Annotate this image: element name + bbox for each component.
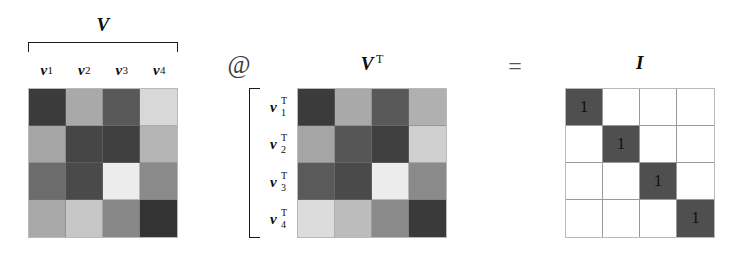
matrix-cell xyxy=(677,163,714,200)
matrix-i-grid: 1111 xyxy=(565,88,715,238)
matrix-cell xyxy=(372,126,409,163)
matrix-cell xyxy=(409,126,446,163)
row-label-v4t-superscript: T xyxy=(281,207,287,218)
matrix-cell xyxy=(640,89,677,126)
matrix-cell xyxy=(103,163,140,200)
matrix-cell xyxy=(140,163,177,200)
matrix-cell xyxy=(140,200,177,237)
matrix-cell xyxy=(640,126,677,163)
matrix-cell xyxy=(566,200,603,237)
row-label-v1t-superscript: T xyxy=(281,95,287,106)
row-label-v2t: v T 2 xyxy=(258,126,294,164)
column-label-v1: v1 xyxy=(28,56,66,84)
matrix-i-title: I xyxy=(565,52,715,74)
matrix-vt-title: VT xyxy=(297,52,447,75)
matrix-cell-value: 1 xyxy=(580,98,589,115)
column-label-v3-symbol: v xyxy=(115,62,122,79)
column-label-v3: v3 xyxy=(103,56,141,84)
matrix-cell xyxy=(29,126,66,163)
row-label-v4t: v T 4 xyxy=(258,201,294,239)
matrix-cell xyxy=(66,89,103,126)
matrix-cell xyxy=(372,163,409,200)
matrix-cell-value: 1 xyxy=(654,172,663,189)
matrix-cell xyxy=(409,200,446,237)
matrix-cell xyxy=(298,89,335,126)
matrix-cell xyxy=(372,89,409,126)
matrix-cell xyxy=(103,89,140,126)
row-label-v3t: v T 3 xyxy=(258,163,294,201)
row-label-v2t-superscript: T xyxy=(281,132,287,143)
row-label-v3t-superscript: T xyxy=(281,170,287,181)
matrix-cell xyxy=(677,89,714,126)
matrix-cell xyxy=(103,126,140,163)
matrix-cell xyxy=(335,163,372,200)
matrix-vt-grid xyxy=(297,88,447,238)
row-label-v2t-subscript: 2 xyxy=(281,144,286,155)
matrix-cell: 1 xyxy=(677,200,714,237)
matrix-cell xyxy=(140,89,177,126)
matrix-cell xyxy=(335,126,372,163)
column-label-v2-subscript: 2 xyxy=(85,64,91,76)
matrix-cell xyxy=(409,163,446,200)
column-label-v2-symbol: v xyxy=(78,62,85,79)
matmul-operator: @ xyxy=(220,48,258,82)
matrix-cell xyxy=(677,126,714,163)
v-column-brace xyxy=(28,42,178,52)
row-label-v1t: v T 1 xyxy=(258,88,294,126)
matrix-cell xyxy=(298,163,335,200)
matrix-cell xyxy=(372,200,409,237)
matrix-cell xyxy=(335,89,372,126)
column-label-v4: v4 xyxy=(141,56,179,84)
matrix-v-title: V xyxy=(0,14,206,36)
row-label-v1t-symbol: v xyxy=(270,99,277,116)
matrix-vt-title-base: V xyxy=(361,53,374,74)
row-label-v3t-symbol: v xyxy=(270,174,277,191)
matrix-cell xyxy=(603,89,640,126)
row-label-v4t-symbol: v xyxy=(270,211,277,228)
matrix-cell xyxy=(640,200,677,237)
column-label-v2: v2 xyxy=(66,56,104,84)
vt-row-labels: v T 1 v T 2 v T 3 v T 4 xyxy=(258,88,294,238)
matrix-cell: 1 xyxy=(640,163,677,200)
matrix-cell: 1 xyxy=(603,126,640,163)
matrix-cell-value: 1 xyxy=(691,209,700,226)
matrix-vt-title-superscript: T xyxy=(376,52,383,66)
matrix-v-grid xyxy=(28,88,178,238)
matrix-cell xyxy=(603,163,640,200)
column-label-v4-symbol: v xyxy=(153,62,160,79)
matrix-cell xyxy=(140,126,177,163)
column-label-v1-symbol: v xyxy=(40,62,47,79)
column-label-v1-subscript: 1 xyxy=(48,64,54,76)
figure-canvas: V v1 v2 v3 v4 @ VT v T 1 v xyxy=(0,0,731,257)
matrix-cell xyxy=(566,126,603,163)
column-label-v4-subscript: 4 xyxy=(160,64,166,76)
matrix-cell xyxy=(409,89,446,126)
matrix-cell xyxy=(103,200,140,237)
row-label-v3t-subscript: 3 xyxy=(281,182,286,193)
row-label-v4t-subscript: 4 xyxy=(281,219,286,230)
matrix-cell xyxy=(298,200,335,237)
matrix-cell-value: 1 xyxy=(617,135,626,152)
row-label-v2t-symbol: v xyxy=(270,136,277,153)
matrix-cell xyxy=(66,200,103,237)
row-label-v1t-subscript: 1 xyxy=(281,107,286,118)
v-column-labels: v1 v2 v3 v4 xyxy=(28,56,178,84)
matrix-cell xyxy=(29,89,66,126)
matrix-cell xyxy=(566,163,603,200)
matrix-cell xyxy=(29,200,66,237)
matrix-cell xyxy=(29,163,66,200)
matrix-cell xyxy=(335,200,372,237)
column-label-v3-subscript: 3 xyxy=(123,64,129,76)
equals-operator: = xyxy=(493,50,537,82)
matrix-cell: 1 xyxy=(566,89,603,126)
matrix-cell xyxy=(603,200,640,237)
matrix-cell xyxy=(66,163,103,200)
matrix-cell xyxy=(298,126,335,163)
matrix-cell xyxy=(66,126,103,163)
